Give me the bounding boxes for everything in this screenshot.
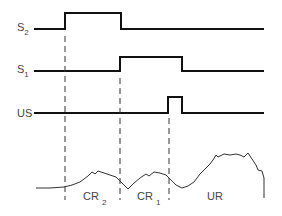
timing-diagram: S2 S1 US CR2 CR1 UR — [0, 0, 282, 216]
label-ur: UR — [207, 190, 223, 202]
label-cr2: CR2 — [83, 190, 107, 207]
label-s1: S1 — [17, 63, 29, 79]
us-trace — [34, 97, 264, 113]
label-s2: S2 — [17, 21, 29, 37]
label-us: US — [17, 107, 32, 119]
s1-trace — [34, 57, 264, 71]
s2-trace — [34, 13, 264, 29]
label-cr1: CR1 — [137, 190, 161, 207]
